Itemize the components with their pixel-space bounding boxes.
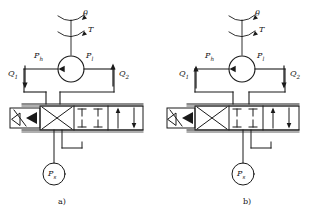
panel-caption-b: b) <box>243 197 251 206</box>
actuator-open-triangle-b <box>168 113 176 125</box>
actuator-open-triangle-a <box>12 113 20 125</box>
port-high-label-b: Ph <box>205 52 214 62</box>
supply-label-a: Ps <box>48 170 56 180</box>
actuator-filled-triangle-b <box>182 112 193 124</box>
figure-panel-b: θ T Ph Pl Q1 Q2 Ps b) <box>165 0 329 219</box>
valve-through-2-head-a <box>132 123 137 128</box>
port-low-label-a: Pl <box>86 52 93 62</box>
schematic-drawing-a <box>0 0 164 219</box>
port-high-label-a: Ph <box>34 52 43 62</box>
actuator-filled-triangle-a <box>26 112 37 124</box>
figure-panel-a: θ T Ph Pl Q1 Q2 Ps a) <box>0 0 164 219</box>
flow2-label-b: Q2 <box>290 70 300 80</box>
q1-arrowhead-a <box>22 83 27 89</box>
q2-arrowhead-b <box>281 83 286 89</box>
theta-label-b: θ <box>255 10 260 18</box>
panel-caption-a: a) <box>58 197 66 206</box>
port-low-label-b: Pl <box>257 52 264 62</box>
supply-label-b: Ps <box>237 170 245 180</box>
q2-arrowhead-a <box>110 64 115 70</box>
theta-label-a: θ <box>83 10 88 18</box>
valve-through-1-head-a <box>116 108 121 113</box>
schematic-drawing-b <box>165 0 329 219</box>
flow1-label-b: Q1 <box>179 70 189 80</box>
pump-flow-arrowhead-a <box>59 66 65 72</box>
valve-body-a <box>40 106 143 130</box>
pump-flow-arrowhead-b <box>230 66 236 72</box>
valve-through-2-head-b <box>287 123 292 128</box>
valve-through-1-head-b <box>271 108 276 113</box>
torque-label-a: T <box>88 26 93 34</box>
flow1-label-a: Q1 <box>8 70 18 80</box>
valve-body-b <box>195 106 299 130</box>
flow2-label-a: Q2 <box>119 70 129 80</box>
torque-label-b: T <box>259 26 264 34</box>
